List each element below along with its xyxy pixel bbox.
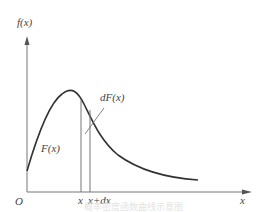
curve-label: F(x) xyxy=(41,143,60,154)
density-diagram xyxy=(0,0,266,212)
y-axis-label: f(x) xyxy=(17,17,32,28)
differential-label: dF(x) xyxy=(100,92,124,103)
density-curve xyxy=(27,90,198,180)
figure-caption: 概率密度函数曲线示意图 xyxy=(0,200,266,212)
y-axis-arrow-icon xyxy=(25,36,30,45)
